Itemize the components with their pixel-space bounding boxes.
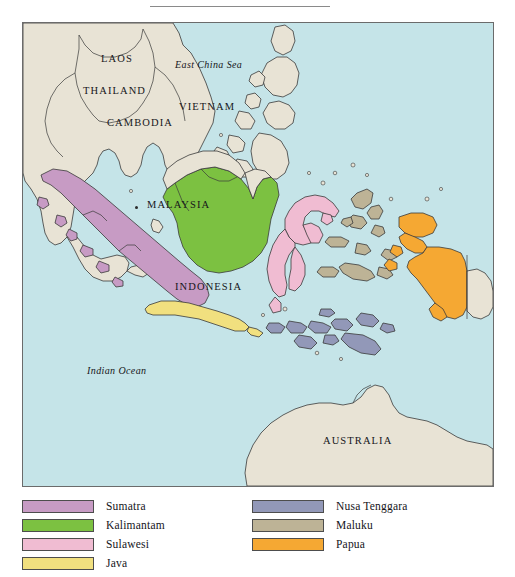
papua-new-guinea xyxy=(467,255,493,319)
kalimantan-island xyxy=(163,167,279,273)
legend-label-papua: Papua xyxy=(336,538,365,550)
legend-label-nusa-tenggara: Nusa Tenggara xyxy=(336,500,408,512)
legend-swatch-nusa-tenggara xyxy=(252,500,324,513)
legend-swatch-java xyxy=(22,557,94,570)
legend-item-nusa-tenggara[interactable]: Nusa Tenggara xyxy=(252,497,472,515)
legend-label-java: Java xyxy=(106,557,127,569)
malaysia-locator-dot xyxy=(135,206,138,209)
northern-island xyxy=(271,25,295,55)
legend-label-sulawesi: Sulawesi xyxy=(106,538,149,550)
legend-item-maluku[interactable]: Maluku xyxy=(252,516,472,534)
java-island xyxy=(145,301,263,337)
legend-column-two: Nusa Tenggara Maluku Papua xyxy=(252,497,472,554)
legend-label-kalimantam: Kalimantam xyxy=(106,519,165,531)
legend-item-sulawesi[interactable]: Sulawesi xyxy=(22,535,242,553)
legend-label-sumatra: Sumatra xyxy=(106,500,146,512)
legend-item-sumatra[interactable]: Sumatra xyxy=(22,497,242,515)
legend-swatch-maluku xyxy=(252,519,324,532)
nusa-tenggara-islands xyxy=(266,309,395,355)
map-frame: .land{fill:#e8e3d5;stroke:#3a3a3a;stroke… xyxy=(22,22,494,487)
legend-swatch-papua xyxy=(252,538,324,551)
top-rule xyxy=(150,6,330,7)
map-graphic: .land{fill:#e8e3d5;stroke:#3a3a3a;stroke… xyxy=(23,23,493,486)
legend-swatch-kalimantam xyxy=(22,519,94,532)
legend-swatch-sumatra xyxy=(22,500,94,513)
legend-item-java[interactable]: Java xyxy=(22,554,242,572)
legend-label-maluku: Maluku xyxy=(336,519,373,531)
legend-item-papua[interactable]: Papua xyxy=(252,535,472,553)
legend-swatch-sulawesi xyxy=(22,538,94,551)
australia-landmass xyxy=(245,385,493,486)
legend-item-kalimantam[interactable]: Kalimantam xyxy=(22,516,242,534)
map-legend: Sumatra Kalimantam Sulawesi Java Nusa Te… xyxy=(22,497,492,569)
legend-column-one: Sumatra Kalimantam Sulawesi Java xyxy=(22,497,242,573)
sulawesi-island xyxy=(267,195,339,313)
papua-island xyxy=(384,213,467,321)
